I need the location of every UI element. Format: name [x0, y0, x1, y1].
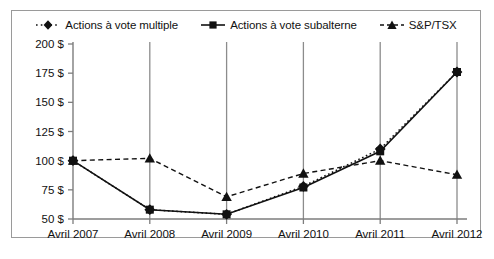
- data-point-square: [299, 184, 307, 192]
- data-point-square: [223, 210, 231, 218]
- y-tick-label: 150 $: [35, 96, 64, 108]
- data-point-triangle: [221, 192, 231, 201]
- y-tick-label: 125 $: [35, 126, 64, 138]
- chart-plot-area: 50 $75 $100 $125 $150 $175 $200 $Avril 2…: [0, 0, 494, 259]
- data-point-square: [376, 147, 384, 155]
- y-tick-label: 175 $: [35, 67, 64, 79]
- y-tick-label: 75 $: [42, 184, 65, 196]
- x-tick-label: Avril 2012: [432, 228, 483, 240]
- x-tick-label: Avril 2010: [278, 228, 329, 240]
- x-tick-label: Avril 2009: [201, 228, 252, 240]
- x-tick-label: Avril 2011: [355, 228, 405, 240]
- series-line-diamond: [73, 72, 457, 214]
- series-line-triangle: [73, 158, 457, 197]
- data-point-square: [453, 68, 461, 76]
- x-tick-label: Avril 2008: [124, 228, 175, 240]
- x-tick-label: Avril 2007: [48, 228, 99, 240]
- data-point-square: [146, 206, 154, 214]
- chart-figure: Actions à vote multiple Actions à vote s…: [0, 0, 494, 259]
- data-point-triangle: [145, 153, 155, 162]
- y-tick-label: 100 $: [35, 155, 64, 167]
- y-tick-label: 50 $: [42, 213, 65, 225]
- series-line-square: [73, 72, 457, 214]
- y-tick-label: 200 $: [35, 38, 64, 50]
- data-point-triangle: [375, 155, 385, 164]
